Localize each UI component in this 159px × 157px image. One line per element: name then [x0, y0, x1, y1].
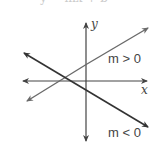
negative-slope-label: m < 0 — [108, 125, 141, 140]
positive-slope-label: m > 0 — [108, 51, 141, 66]
x-axis-label: x — [141, 83, 148, 97]
slope-diagram: y x m > 0 m < 0 — [0, 0, 159, 157]
y-axis-label: y — [90, 17, 98, 31]
